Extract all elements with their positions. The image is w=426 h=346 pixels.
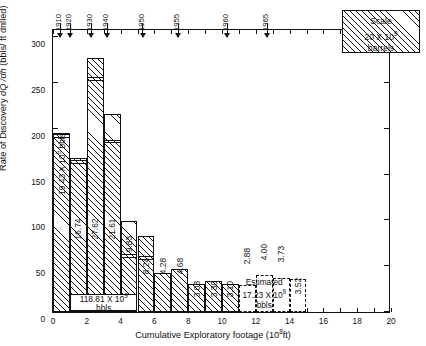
histogram-bar <box>154 273 171 312</box>
bar-segment-divider <box>87 77 104 81</box>
x-tick-label: 16 <box>319 316 328 326</box>
scale-legend: Scale20 X 109barrels <box>342 10 420 53</box>
y-tick-right <box>384 82 389 83</box>
year-arrow <box>91 23 92 37</box>
legend-title: Scale <box>343 16 419 28</box>
chart-figure: 0246810121416182005010015020025030019.43… <box>0 0 426 346</box>
bar-value-label: 16.74 <box>73 219 83 240</box>
x-tick-label: 12 <box>251 316 260 326</box>
y-tick-right <box>384 219 389 220</box>
x-tick-top <box>188 30 189 34</box>
year-label: 1950 <box>137 14 146 31</box>
x-tick-label: 2 <box>84 316 89 326</box>
x-tick-label: 6 <box>152 316 157 326</box>
year-arrow <box>227 23 228 37</box>
cumulative-discovery-box: 118.81 X 109 bbls <box>70 294 138 311</box>
y-tick-right <box>384 128 389 129</box>
x-tick-label: 0 <box>51 316 56 326</box>
year-label: 1940 <box>101 14 110 31</box>
bar-value-label: 2.88 <box>242 248 252 264</box>
x-tick-label: 10 <box>217 316 226 326</box>
bar-value-label: 3.10 <box>225 281 235 297</box>
x-tick-top <box>323 30 324 34</box>
x-tick <box>323 308 324 312</box>
bar-segment-divider <box>104 140 121 144</box>
year-label: 1910 <box>54 14 63 31</box>
histogram-bar <box>171 269 188 312</box>
x-tick <box>307 308 308 312</box>
bar-value-label: 21.61 <box>107 219 117 240</box>
y-tick <box>53 128 58 129</box>
first-bar-annotation: 19.43 X 109 bbls <box>56 133 68 195</box>
bar-value-label: 9.83 <box>124 236 134 252</box>
histogram-bar <box>87 58 104 312</box>
x-tick-top <box>121 30 122 34</box>
y-tick-right <box>384 311 389 312</box>
year-arrow <box>60 23 61 37</box>
y-tick-right <box>384 265 389 266</box>
bar-value-label: 8.24 <box>141 258 151 274</box>
year-label: 1920 <box>64 14 73 31</box>
x-tick <box>391 308 392 312</box>
bar-value-label: 4.68 <box>175 258 185 274</box>
bar-segment-divider <box>121 254 138 258</box>
bar-value-label: 3.52 <box>293 278 303 294</box>
y-tick-right <box>384 174 389 175</box>
year-arrow <box>178 23 179 37</box>
bar-value-label: 4.00 <box>259 244 269 260</box>
x-tick-label: 4 <box>118 316 123 326</box>
x-tick-top <box>307 30 308 34</box>
x-tick <box>340 308 341 312</box>
x-tick-top <box>256 30 257 34</box>
year-arrow <box>142 23 143 37</box>
bar-value-label: 4.28 <box>158 258 168 274</box>
year-label: 1955 <box>172 14 181 31</box>
year-arrow <box>107 23 108 37</box>
year-label: 1960 <box>221 14 230 31</box>
legend-unit: barrels <box>343 43 419 55</box>
x-tick <box>374 308 375 312</box>
year-label: 1965 <box>261 14 270 31</box>
bar-value-label: 3.30 <box>209 281 219 297</box>
year-arrow <box>267 23 268 37</box>
x-tick-label: 14 <box>285 316 294 326</box>
plot-area: 0246810121416182005010015020025030019.43… <box>52 29 390 313</box>
x-tick-top <box>290 30 291 34</box>
x-axis-title: Cumulative Exploratory footage (108ft) <box>0 328 426 340</box>
legend-value: 20 X 109 <box>343 28 419 43</box>
x-tick-label: 20 <box>386 316 395 326</box>
y-tick <box>53 82 58 83</box>
x-tick-label: 18 <box>353 316 362 326</box>
x-tick-top <box>239 30 240 34</box>
histogram-bar <box>104 114 121 312</box>
x-tick-label: 8 <box>186 316 191 326</box>
bar-value-label: 3.08 <box>192 281 202 297</box>
bar-value-label: 27.62 <box>90 219 100 240</box>
bar-value-label: 3.73 <box>276 246 286 262</box>
year-label: 1930 <box>85 14 94 31</box>
y-axis-title: Rate of Discovery dQ /dh (bbls/ ft drill… <box>0 6 8 171</box>
x-tick-top <box>205 30 206 34</box>
x-tick <box>357 308 358 312</box>
year-arrow <box>70 23 71 37</box>
x-tick-top <box>273 30 274 34</box>
estimated-discovery-caption: Estimated17.23 X 109bbls <box>242 278 286 310</box>
x-tick-top <box>154 30 155 34</box>
bar-segment-divider <box>70 160 87 164</box>
